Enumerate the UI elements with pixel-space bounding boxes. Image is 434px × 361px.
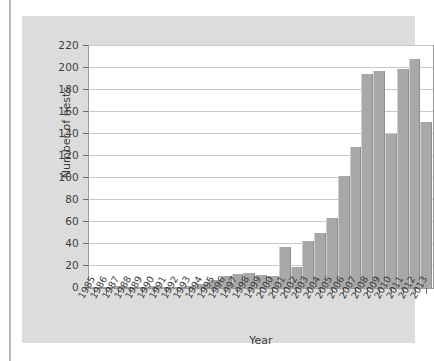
- y-tick-160: 160: [58, 105, 88, 117]
- y-tick-label: 180: [58, 83, 83, 95]
- x-tick-label-wrap: 2001: [279, 295, 291, 339]
- x-tick-label-wrap: 1987: [113, 295, 125, 339]
- y-tick-140: 140: [58, 127, 88, 139]
- y-tick-label: 220: [58, 39, 83, 51]
- y-tick-100: 100: [58, 171, 88, 183]
- x-tick-label-wrap: 2008: [362, 295, 374, 339]
- x-tick-label-wrap: 1993: [184, 295, 196, 339]
- x-tick-label-wrap: 1999: [255, 295, 267, 339]
- x-tick-label-wrap: 1994: [196, 295, 208, 339]
- y-tick-label: 120: [58, 149, 83, 161]
- bar: [420, 122, 432, 288]
- bar: [350, 147, 362, 288]
- x-tick-label-wrap: 2013: [421, 295, 433, 339]
- x-tick-label-wrap: 2000: [267, 295, 279, 339]
- x-tick-label-wrap: 2012: [409, 295, 421, 339]
- x-tick-label-wrap: 2006: [338, 295, 350, 339]
- x-tick-label-wrap: 1996: [219, 295, 231, 339]
- bar: [385, 134, 397, 288]
- bar: [409, 59, 421, 288]
- x-tick-label-wrap: 2005: [326, 295, 338, 339]
- x-tick-label-wrap: 2002: [291, 295, 303, 339]
- x-tick-label-wrap: 2007: [350, 295, 362, 339]
- y-axis-ticks: 020406080100120140160180200220: [22, 45, 88, 287]
- chart-figure-panel: Number of nests 020406080100120140160180…: [22, 16, 415, 343]
- y-tick-200: 200: [58, 61, 88, 73]
- x-tick-label-wrap: 1997: [231, 295, 243, 339]
- bar-series: [89, 46, 433, 288]
- bar: [338, 176, 350, 288]
- y-tick-40: 40: [65, 237, 88, 249]
- x-tick-label-wrap: 1989: [136, 295, 148, 339]
- x-tick-label-wrap: 1990: [148, 295, 160, 339]
- plot-area: [88, 45, 434, 289]
- y-tick-60: 60: [65, 215, 88, 227]
- y-tick-label: 80: [65, 193, 83, 205]
- x-tick-label-wrap: 2004: [314, 295, 326, 339]
- x-tick-label-wrap: 1995: [208, 295, 220, 339]
- bar: [397, 69, 409, 288]
- x-tick-label-wrap: 1985: [89, 295, 101, 339]
- y-tick-label: 200: [58, 61, 83, 73]
- y-tick-20: 20: [65, 259, 88, 271]
- x-tick-label-wrap: 2010: [385, 295, 397, 339]
- x-tick-label-wrap: 1988: [125, 295, 137, 339]
- y-tick-180: 180: [58, 83, 88, 95]
- y-tick-220: 220: [58, 39, 88, 51]
- y-tick-label: 100: [58, 171, 83, 183]
- y-tick-120: 120: [58, 149, 88, 161]
- y-tick-label: 40: [65, 237, 83, 249]
- page-edge-rule: [9, 0, 11, 361]
- y-tick-label: 60: [65, 215, 83, 227]
- y-tick-80: 80: [65, 193, 88, 205]
- x-tick-label-wrap: 2009: [374, 295, 386, 339]
- x-axis-title: Year: [88, 334, 434, 347]
- y-tick-label: 160: [58, 105, 83, 117]
- y-tick-label: 140: [58, 127, 83, 139]
- x-tick-label-wrap: 1992: [172, 295, 184, 339]
- bar: [361, 74, 373, 289]
- x-tick-label-wrap: 1986: [101, 295, 113, 339]
- x-axis-tick-labels: 1985198619871988198919901991199219931994…: [88, 295, 434, 339]
- x-tick-label-wrap: 2003: [302, 295, 314, 339]
- x-tick-label-wrap: 1998: [243, 295, 255, 339]
- bar: [373, 71, 385, 288]
- x-tick-label-wrap: 1991: [160, 295, 172, 339]
- x-tick-label-wrap: 2011: [397, 295, 409, 339]
- y-tick-label: 20: [65, 259, 83, 271]
